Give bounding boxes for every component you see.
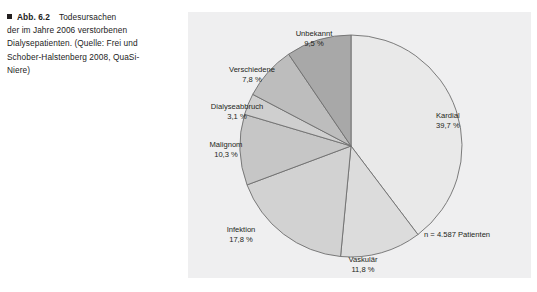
pie-label-verschiedene-name: Verschiedene xyxy=(213,65,291,75)
square-bullet-icon xyxy=(7,14,12,19)
pie-label-infektion-value: 17,8 % xyxy=(210,235,272,245)
pie-label-vaskulaer: Vaskulär 11,8 % xyxy=(333,255,393,276)
pie-label-dialyseabbruch-value: 3,1 % xyxy=(193,112,281,122)
pie-chart: Unbekannt 9,5 % Verschiedene 7,8 % Dialy… xyxy=(188,12,531,278)
caption-line-5: Niere) xyxy=(7,64,179,77)
pie-label-unbekannt-value: 9,5 % xyxy=(281,39,347,49)
pie-label-dialyseabbruch-name: Dialyseabbruch xyxy=(193,102,281,112)
chart-panel: Unbekannt 9,5 % Verschiedene 7,8 % Dialy… xyxy=(188,12,531,278)
pie-label-kardial-value: 39,7 % xyxy=(436,121,496,131)
pie-label-malignom-value: 10,3 % xyxy=(190,150,262,160)
caption-line-4: Schober-Halstenberg 2008, QuaSi- xyxy=(7,51,179,64)
pie-label-unbekannt: Unbekannt 9,5 % xyxy=(281,29,347,50)
pie-label-malignom: Malignom 10,3 % xyxy=(190,140,262,161)
pie-label-infektion-name: Infektion xyxy=(210,225,272,235)
pie-label-verschiedene-value: 7,8 % xyxy=(213,75,291,85)
caption-line-1: Abb. 6.2Todesursachen xyxy=(7,11,179,24)
caption-line-3: Dialysepatienten. (Quelle: Frei und xyxy=(7,37,179,50)
pie-label-kardial-name: Kardial xyxy=(436,111,496,121)
caption-line-2: der im Jahre 2006 verstorbenen xyxy=(7,24,179,37)
sample-size-note: n = 4.587 Patienten xyxy=(424,230,534,240)
pie-label-infektion: Infektion 17,8 % xyxy=(210,225,272,246)
caption-text-1: Todesursachen xyxy=(59,12,116,22)
pie-label-kardial: Kardial 39,7 % xyxy=(436,111,496,132)
figure-caption: Abb. 6.2Todesursachen der im Jahre 2006 … xyxy=(7,11,179,77)
figure-number: Abb. 6.2 xyxy=(17,12,50,22)
pie-label-vaskulaer-name: Vaskulär xyxy=(333,255,393,265)
pie-label-unbekannt-name: Unbekannt xyxy=(281,29,347,39)
pie-label-dialyseabbruch: Dialyseabbruch 3,1 % xyxy=(193,102,281,123)
pie-label-malignom-name: Malignom xyxy=(190,140,262,150)
pie-label-verschiedene: Verschiedene 7,8 % xyxy=(213,65,291,86)
pie-label-vaskulaer-value: 11,8 % xyxy=(333,265,393,275)
